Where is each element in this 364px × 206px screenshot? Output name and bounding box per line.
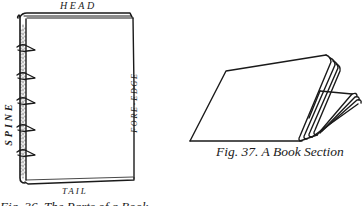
figure-36-caption: Fig. 36. The Parts of a Book — [0, 199, 148, 206]
tail-edge — [25, 177, 134, 184]
illustration-canvas: HEAD SPINE FORE-EDGE TAIL Fig. 37. A Boo… — [0, 0, 364, 206]
fore-edge-label: FORE-EDGE — [130, 63, 139, 143]
head-edge — [20, 13, 133, 18]
figure-37-caption: Fig. 37. A Book Section — [216, 144, 344, 160]
book-section-drawing — [190, 55, 361, 141]
tail-label: TAIL — [62, 186, 88, 196]
head-label: HEAD — [60, 0, 97, 11]
book-parts-drawing — [0, 0, 364, 206]
spine-label: SPINE — [3, 94, 14, 154]
